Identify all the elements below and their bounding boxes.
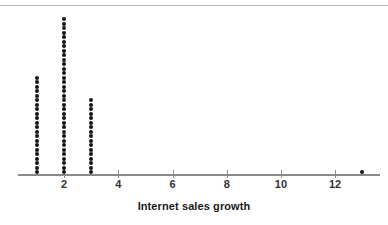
- data-dot: [35, 170, 39, 174]
- data-dot: [62, 49, 66, 53]
- x-axis-tick-label-4: 4: [103, 178, 133, 191]
- data-dot: [62, 62, 66, 66]
- x-axis-line: [18, 174, 380, 176]
- data-dot: [35, 85, 39, 89]
- data-dot: [89, 121, 93, 125]
- data-dot: [35, 112, 39, 116]
- top-divider-rule: [0, 5, 388, 6]
- data-dot: [89, 116, 93, 120]
- data-dot: [62, 58, 66, 62]
- data-dot: [35, 89, 39, 93]
- x-axis-tick-label-2: 2: [49, 178, 79, 191]
- data-dot: [35, 116, 39, 120]
- data-dot: [35, 143, 39, 147]
- data-dot: [62, 166, 66, 170]
- data-dot: [35, 121, 39, 125]
- data-dot: [62, 71, 66, 75]
- data-dot: [62, 89, 66, 93]
- data-dot: [89, 130, 93, 134]
- data-dot: [62, 31, 66, 35]
- x-axis-tick-label-12: 12: [320, 178, 350, 191]
- data-dot: [35, 161, 39, 165]
- x-axis-label: Internet sales growth: [0, 200, 388, 212]
- data-dot: [62, 157, 66, 161]
- data-dot: [62, 35, 66, 39]
- data-dot: [35, 98, 39, 102]
- data-dot: [35, 107, 39, 111]
- data-dot: [62, 152, 66, 156]
- data-dot: [35, 152, 39, 156]
- data-dot: [62, 103, 66, 107]
- data-dot: [62, 22, 66, 26]
- data-dot: [89, 157, 93, 161]
- data-dot: [35, 166, 39, 170]
- data-dot: [62, 40, 66, 44]
- data-dot: [89, 139, 93, 143]
- data-dot: [62, 44, 66, 48]
- data-dot: [62, 76, 66, 80]
- data-dot: [35, 125, 39, 129]
- data-dot: [89, 148, 93, 152]
- data-dot: [89, 152, 93, 156]
- data-dot: [35, 130, 39, 134]
- data-dot: [62, 134, 66, 138]
- data-dot: [89, 125, 93, 129]
- x-axis-tick-12: [335, 170, 336, 178]
- x-axis-tick-label-8: 8: [212, 178, 242, 191]
- data-dot: [89, 112, 93, 116]
- data-dot: [62, 26, 66, 30]
- data-dot: [89, 166, 93, 170]
- data-dot: [62, 98, 66, 102]
- x-axis-tick-8: [227, 170, 228, 178]
- data-dot: [62, 107, 66, 111]
- data-dot: [62, 161, 66, 165]
- x-axis-tick-6: [173, 170, 174, 178]
- data-dot: [62, 116, 66, 120]
- data-dot: [89, 143, 93, 147]
- data-dot: [62, 143, 66, 147]
- data-dot: [35, 139, 39, 143]
- data-dot: [62, 53, 66, 57]
- data-dot: [35, 134, 39, 138]
- x-axis-tick-10: [281, 170, 282, 178]
- data-dot: [89, 161, 93, 165]
- data-dot: [62, 17, 66, 21]
- x-axis-tick-4: [118, 170, 119, 178]
- data-dot: [35, 76, 39, 80]
- data-dot: [62, 130, 66, 134]
- data-dot: [35, 103, 39, 107]
- data-dot: [62, 85, 66, 89]
- data-dot: [89, 107, 93, 111]
- dot-plot-figure: 24681012 Internet sales growth: [0, 0, 388, 225]
- data-dot: [35, 94, 39, 98]
- data-dot: [35, 148, 39, 152]
- data-dot: [89, 134, 93, 138]
- x-axis-tick-label-6: 6: [158, 178, 188, 191]
- data-dot: [89, 98, 93, 102]
- data-dot: [62, 121, 66, 125]
- data-dot: [35, 157, 39, 161]
- x-axis-tick-label-10: 10: [266, 178, 296, 191]
- data-dot: [62, 80, 66, 84]
- data-dot: [35, 80, 39, 84]
- data-dot: [62, 148, 66, 152]
- data-dot: [89, 103, 93, 107]
- data-dot: [62, 139, 66, 143]
- data-dot: [62, 67, 66, 71]
- data-dot: [62, 94, 66, 98]
- data-dot: [62, 125, 66, 129]
- data-dot: [62, 112, 66, 116]
